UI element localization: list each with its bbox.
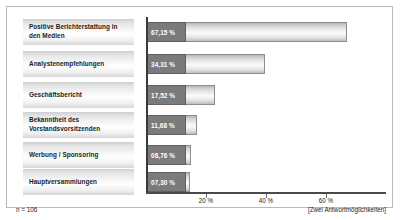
- category-label-line2: den Medien: [29, 32, 128, 41]
- category-label: Hauptversammlungen: [23, 169, 134, 195]
- y-axis-line: [146, 17, 148, 193]
- category-label: Werbung / Sponsoring: [23, 142, 134, 168]
- x-axis-tick-label: 40 %: [259, 197, 273, 204]
- category-label-line2: Vorstandsvorsitzenden: [29, 125, 128, 134]
- x-axis-tick-label: 20 %: [199, 197, 213, 204]
- bar-row: Analystenempfehlungen 34,31 %: [23, 51, 386, 77]
- category-label-line1: Analystenempfehlungen: [29, 60, 128, 69]
- bar-value-label: 07,30 %: [146, 172, 186, 192]
- category-label: Geschäftsbericht: [23, 82, 134, 108]
- chart-plot-area: Positive Berichterstattung in den Medien…: [7, 7, 392, 207]
- bar-row: Geschäftsbericht 17,52 %: [23, 82, 386, 108]
- category-label-line1: Geschäftsbericht: [29, 91, 128, 100]
- bar-value-label: 67,15 %: [146, 22, 186, 42]
- bar-row: Werbung / Sponsoring 08,76 %: [23, 142, 386, 168]
- bar-value-label: 17,52 %: [146, 85, 186, 105]
- bar-value-label: 34,31 %: [146, 54, 186, 74]
- bar-value-label: 08,76 %: [146, 145, 186, 165]
- category-label-line1: Werbung / Sponsoring: [29, 151, 128, 160]
- category-label: Analystenempfehlungen: [23, 51, 134, 77]
- category-label-line1: Bekanntheit des: [29, 116, 128, 125]
- bar-row: Bekanntheit des Vorstandsvorsitzenden 11…: [23, 112, 386, 138]
- category-label: Bekanntheit des Vorstandsvorsitzenden: [23, 112, 134, 138]
- bar-value-label: 11,68 %: [146, 115, 186, 135]
- category-label-line1: Positive Berichterstattung in: [29, 23, 128, 32]
- bar-row: Positive Berichterstattung in den Medien…: [23, 19, 386, 45]
- category-label-line1: Hauptversammlungen: [29, 178, 128, 187]
- chart-frame: Positive Berichterstattung in den Medien…: [6, 6, 393, 208]
- category-label: Positive Berichterstattung in den Medien: [23, 19, 134, 45]
- sample-size-note: n = 106: [16, 206, 37, 213]
- answer-options-note: [Zwei Antwortmöglichkeiten]: [308, 206, 386, 213]
- x-axis-tick-label: 60 %: [319, 197, 333, 204]
